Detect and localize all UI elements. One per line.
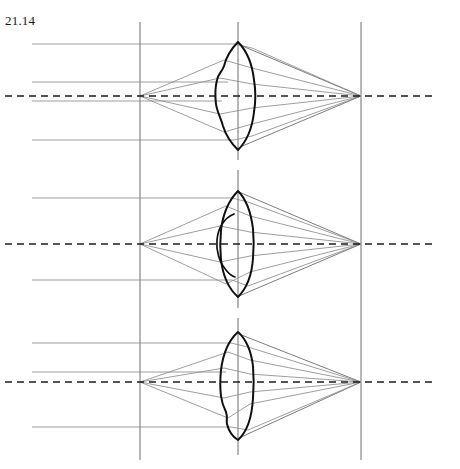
ray-line (228, 352, 250, 360)
ray-line (234, 136, 252, 140)
ray-line (228, 404, 250, 418)
divergent-rays-group-3 (140, 352, 228, 418)
ray-line (220, 256, 250, 262)
ray-line (220, 108, 252, 114)
ray-line (140, 96, 220, 114)
convergent-rays-group-3 (239, 334, 361, 438)
ray-line (140, 206, 226, 244)
ray-line (140, 244, 220, 262)
ray-line (140, 382, 224, 398)
ray-line (252, 84, 361, 96)
figure-root: 21.14 .ray { stroke:#8d8d8d; stroke-widt… (0, 0, 460, 469)
ray-line (250, 360, 361, 382)
lens-group-2 (5, 191, 437, 297)
ray-line (140, 78, 220, 96)
ray-line (231, 343, 248, 347)
ray-diagram-canvas: .ray { stroke:#8d8d8d; stroke-width:0.85… (0, 0, 460, 469)
ray-line (140, 368, 224, 382)
ray-line (224, 368, 250, 374)
ray-line (220, 226, 250, 232)
divergent-rays-group-2 (140, 206, 226, 284)
ray-line (140, 60, 224, 96)
ray-line (140, 226, 220, 244)
ray-line (250, 382, 361, 392)
ray-line (140, 352, 228, 382)
ray-line (220, 78, 252, 84)
incoming-parallel-rays-group-3 (32, 343, 231, 427)
ray-line (239, 382, 361, 438)
lens-outline (220, 332, 254, 440)
internal-rays-group-3 (224, 343, 250, 430)
ray-line (248, 382, 361, 430)
ray-line (140, 244, 226, 284)
lens-group-1 (5, 42, 437, 150)
internal-rays-group-1 (220, 44, 252, 140)
ray-line (252, 96, 361, 124)
ray-line (240, 96, 361, 147)
incoming-parallel-rays-group-1 (32, 44, 234, 140)
ray-line (140, 382, 228, 418)
ray-line (224, 392, 250, 398)
incoming-parallel-rays-group-2 (32, 198, 232, 280)
lens-group-3 (5, 332, 437, 440)
ray-line (250, 382, 361, 404)
ray-line (248, 347, 361, 382)
